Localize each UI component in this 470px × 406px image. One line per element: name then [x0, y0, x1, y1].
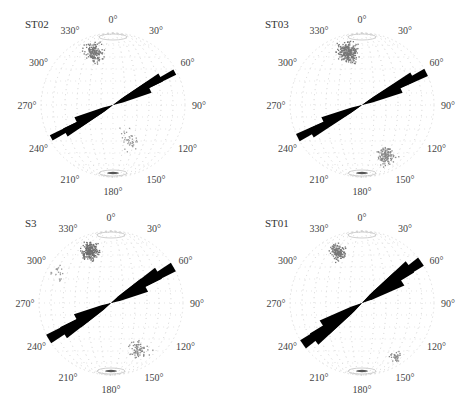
degree-label-270: 270°: [18, 100, 37, 111]
degree-label-240: 240°: [29, 143, 48, 154]
degree-label-90: 90°: [441, 298, 455, 309]
degree-label-120: 120°: [427, 143, 446, 154]
degree-label-210: 210°: [310, 372, 329, 383]
degree-label-30: 30°: [147, 223, 161, 234]
degree-label-30: 30°: [398, 25, 412, 36]
degree-label-150: 150°: [145, 372, 164, 383]
rose-diagram: [50, 69, 176, 140]
degree-label-240: 240°: [278, 341, 297, 352]
degree-label-0: 0°: [109, 14, 118, 25]
degree-label-60: 60°: [178, 255, 192, 266]
degree-label-120: 120°: [178, 143, 197, 154]
pole-scatter: [329, 243, 401, 362]
degree-label-90: 90°: [190, 298, 204, 309]
degree-label-330: 330°: [59, 223, 78, 234]
degree-label-240: 240°: [278, 143, 297, 154]
stereonet-panel-st01: ST01 0°30°60°90°120°150°180°210°240°270°…: [235, 203, 470, 406]
degree-label-300: 300°: [278, 255, 297, 266]
panel-title: ST03: [265, 18, 289, 30]
degree-label-210: 210°: [310, 174, 329, 185]
degree-label-150: 150°: [396, 174, 415, 185]
degree-label-0: 0°: [358, 14, 367, 25]
degree-label-180: 180°: [104, 186, 123, 197]
degree-label-150: 150°: [396, 372, 415, 383]
degree-label-300: 300°: [27, 255, 46, 266]
degree-label-0: 0°: [107, 212, 116, 223]
degree-label-300: 300°: [278, 57, 297, 68]
degree-label-270: 270°: [16, 298, 35, 309]
stereonet-panel-st02: ST02 0°30°60°90°120°150°180°210°240°270°…: [0, 0, 235, 203]
degree-label-240: 240°: [27, 341, 46, 352]
degree-label-180: 180°: [353, 384, 372, 395]
stereonet-panel-s3: S3 0°30°60°90°120°150°180°210°240°270°30…: [0, 203, 235, 406]
panel-title: ST01: [265, 217, 289, 229]
degree-label-120: 120°: [427, 341, 446, 352]
panel-title: S3: [25, 217, 37, 229]
degree-label-210: 210°: [61, 174, 80, 185]
degree-label-330: 330°: [61, 25, 80, 36]
degree-label-300: 300°: [29, 57, 48, 68]
degree-label-0: 0°: [358, 212, 367, 223]
degree-label-90: 90°: [192, 100, 206, 111]
degree-label-330: 330°: [310, 223, 329, 234]
degree-label-90: 90°: [441, 100, 455, 111]
degree-label-60: 60°: [429, 255, 443, 266]
degree-label-270: 270°: [267, 298, 286, 309]
degree-label-60: 60°: [429, 57, 443, 68]
degree-label-150: 150°: [147, 174, 166, 185]
degree-label-180: 180°: [102, 384, 121, 395]
stereonet-panel-st03: ST03 0°30°60°90°120°150°180°210°240°270°…: [235, 0, 470, 203]
pole-scatter: [335, 41, 399, 168]
degree-label-60: 60°: [180, 57, 194, 68]
degree-label-330: 330°: [310, 25, 329, 36]
panel-title: ST02: [25, 18, 49, 30]
degree-label-210: 210°: [59, 372, 78, 383]
degree-label-270: 270°: [267, 100, 286, 111]
degree-label-30: 30°: [149, 25, 163, 36]
pole-scatter: [50, 242, 153, 359]
degree-label-180: 180°: [353, 186, 372, 197]
degree-label-30: 30°: [398, 223, 412, 234]
degree-label-120: 120°: [176, 341, 195, 352]
